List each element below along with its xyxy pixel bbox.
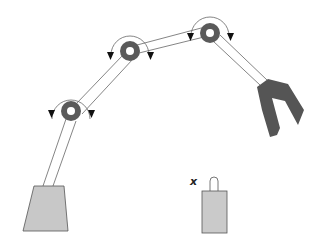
object-body [202, 191, 227, 233]
joint-2 [107, 36, 154, 61]
target-object [202, 177, 227, 233]
arrowhead-left-icon [107, 52, 114, 60]
gripper [257, 79, 304, 137]
arrowhead-right-icon [147, 52, 154, 60]
robot-base [23, 186, 68, 231]
link-joint2-to-joint3 [137, 27, 208, 53]
arrowhead-right-icon [227, 33, 234, 41]
object-label: x [189, 175, 198, 188]
link-base-to-joint1 [43, 119, 76, 186]
robot-arm-diagram: x [0, 0, 320, 244]
link-joint3-to-gripper [213, 35, 267, 85]
object-handle [210, 177, 218, 192]
arrowhead-left-icon [48, 110, 55, 118]
joint-1 [48, 100, 95, 121]
